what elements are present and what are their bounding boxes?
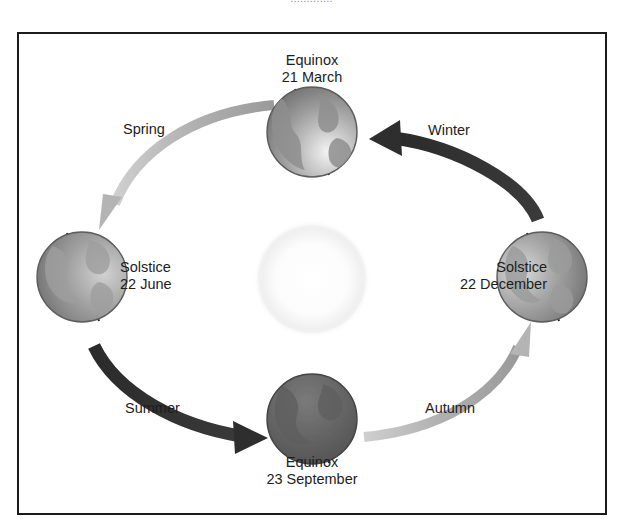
- sun-graphic: [254, 221, 370, 337]
- label-solstice-december-event: Solstice: [417, 259, 547, 276]
- cut-off-caption-text: .............: [0, 0, 623, 5]
- label-solstice-december-date: 22 December: [417, 276, 547, 293]
- earth-globe-march: [267, 87, 357, 177]
- seasons-orbit-diagram: Equinox 21 March Solstice 22 June Equino…: [19, 34, 605, 513]
- label-equinox-september: Equinox 23 September: [222, 454, 402, 487]
- label-solstice-june-event: Solstice: [120, 259, 220, 276]
- earth-globe-june: [37, 232, 127, 322]
- label-equinox-september-event: Equinox: [222, 454, 402, 471]
- label-season-spring: Spring: [123, 121, 165, 137]
- label-equinox-march-event: Equinox: [232, 52, 392, 69]
- label-season-autumn: Autumn: [425, 400, 475, 416]
- label-equinox-march: Equinox 21 March: [232, 52, 392, 85]
- earth-globe-september: [267, 374, 357, 464]
- label-season-summer: Summer: [125, 400, 180, 416]
- figure-frame: Equinox 21 March Solstice 22 June Equino…: [17, 32, 607, 515]
- label-equinox-september-date: 23 September: [222, 471, 402, 488]
- label-solstice-june-date: 22 June: [120, 276, 220, 293]
- label-solstice-june: Solstice 22 June: [120, 259, 220, 292]
- label-solstice-december: Solstice 22 December: [417, 259, 547, 292]
- label-equinox-march-date: 21 March: [232, 69, 392, 86]
- season-arrow-autumn: [364, 322, 531, 437]
- season-arrow-summer: [94, 346, 268, 454]
- label-season-winter: Winter: [428, 122, 470, 138]
